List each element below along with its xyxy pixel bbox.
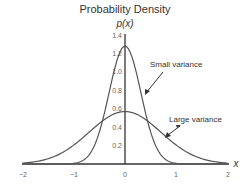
- x-tick-labels: −2 −1 0 1 2: [19, 171, 230, 178]
- x-tick: 0: [123, 171, 127, 178]
- annotation-small-variance: Small variance: [150, 60, 203, 69]
- arrow-large-variance: [168, 126, 180, 135]
- y-tick: 0.8: [112, 87, 122, 94]
- y-tick: 1.4: [112, 32, 122, 39]
- x-tick: −1: [70, 171, 78, 178]
- chart-title: Probability Density: [79, 3, 171, 15]
- x-axis-label: x: [233, 158, 240, 169]
- y-tick: 0.6: [112, 105, 122, 112]
- x-tick: −2: [19, 171, 27, 178]
- x-tick: 1: [174, 171, 178, 178]
- y-axis-label: p(x): [115, 18, 133, 29]
- y-tick: 0.4: [112, 124, 122, 131]
- arrow-small-variance: [146, 72, 163, 93]
- probability-density-chart: Probability Density p(x) x −2 −1 0 1 2 0…: [0, 0, 251, 190]
- arrowhead-icon: [145, 89, 150, 95]
- annotation-large-variance: Large variance: [169, 115, 222, 124]
- x-tick: 2: [226, 171, 230, 178]
- y-tick: 0.2: [112, 142, 122, 149]
